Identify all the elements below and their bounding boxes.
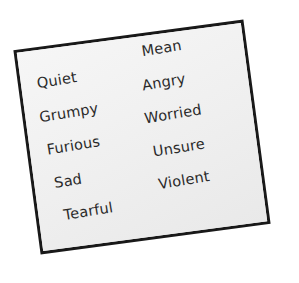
word-item: Violent — [157, 160, 265, 191]
word-item: Tearful — [63, 192, 165, 222]
scene-canvas: Quiet Grumpy Furious Sad Tearful Mean An… — [0, 0, 299, 283]
word-item: Worried — [143, 94, 256, 126]
word-item: Grumpy — [38, 92, 151, 124]
word-item: Angry — [141, 61, 252, 93]
word-item: Furious — [46, 125, 156, 157]
word-item: Sad — [53, 159, 160, 190]
word-item: Unsure — [152, 127, 261, 159]
right-word-column: Mean Angry Worried Unsure Violent — [135, 30, 268, 211]
emotion-words-card: Quiet Grumpy Furious Sad Tearful Mean An… — [13, 20, 270, 255]
